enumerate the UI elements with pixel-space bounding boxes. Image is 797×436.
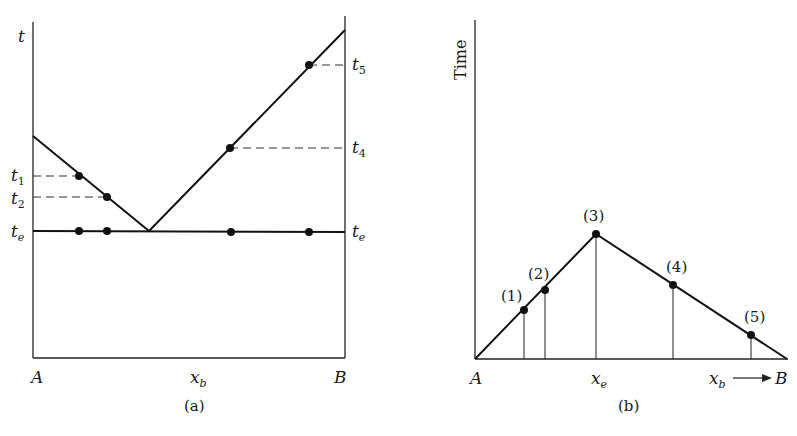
point-te-1 [75, 227, 83, 235]
label-point-4: (4) [666, 258, 687, 276]
point-1 [520, 306, 528, 314]
arrow-right-icon [733, 374, 772, 382]
label-te-left: te [11, 221, 25, 244]
liquidus-b-line [149, 30, 345, 231]
liquidus-a-line [33, 136, 149, 231]
panel-b: (1) (2) (3) (4) (5) Time A xe xb B (b) [451, 20, 788, 415]
label-t5: t5 [352, 54, 366, 77]
point-t1 [75, 172, 83, 180]
point-3 [592, 230, 600, 238]
caption-a: (a) [184, 397, 205, 415]
label-a: A [468, 368, 482, 388]
label-t1: t1 [11, 165, 25, 188]
figure: t t1 t2 te t5 t4 te A B xb (a) (1) (2) (… [0, 0, 797, 436]
y-axis-label-t: t [18, 26, 25, 46]
point-5 [747, 331, 755, 339]
label-xb: xb [709, 368, 726, 391]
label-xe: xe [591, 368, 608, 391]
label-point-5: (5) [744, 308, 765, 326]
point-te-5 [305, 228, 313, 236]
label-te-right: te [352, 221, 366, 244]
caption-b: (b) [618, 397, 639, 415]
y-axis-label-time: Time [451, 40, 470, 80]
point-4 [669, 281, 677, 289]
point-t2 [103, 193, 111, 201]
x-axis-label: xb [190, 367, 207, 390]
point-t4 [226, 144, 234, 152]
label-a-left: A [29, 367, 43, 387]
label-b-right: B [333, 367, 347, 387]
point-te-2 [103, 227, 111, 235]
point-2 [541, 286, 549, 294]
point-t5 [305, 61, 313, 69]
label-point-1: (1) [501, 287, 522, 305]
point-te-4 [227, 228, 235, 236]
label-point-3: (3) [583, 207, 604, 225]
label-point-2: (2) [528, 265, 549, 283]
label-b: B [774, 368, 788, 388]
label-t4: t4 [352, 137, 366, 160]
label-t2: t2 [11, 188, 25, 211]
panel-a: t t1 t2 te t5 t4 te A B xb (a) [11, 16, 366, 415]
